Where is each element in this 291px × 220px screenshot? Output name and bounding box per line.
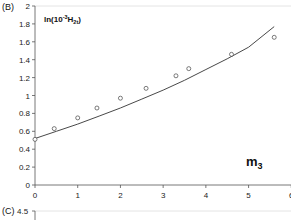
- x-ticks: 0123456: [33, 185, 291, 200]
- data-point: [33, 137, 37, 141]
- data-point: [187, 67, 191, 71]
- data-point: [272, 35, 276, 39]
- y-tick-label: 1: [26, 92, 31, 101]
- x-tick-label: 3: [161, 191, 166, 200]
- chart-panel-b: 00.20.40.60.811.21.41.61.82 0123456 (B) …: [0, 0, 291, 220]
- panel-label-b: (B): [2, 2, 14, 12]
- x-tick-label: 2: [118, 191, 123, 200]
- y-tick-label: 0: [26, 181, 31, 190]
- y-tick-label: 1.6: [19, 38, 31, 47]
- data-point: [95, 106, 99, 110]
- x-tick-label: 0: [33, 191, 38, 200]
- y-tick-label: 1.4: [19, 56, 31, 65]
- data-point: [144, 86, 148, 90]
- panel-label-c: (C): [2, 206, 15, 216]
- data-point: [76, 116, 80, 120]
- panel-c-y-tick: 4.5: [17, 207, 29, 216]
- y-tick-label: 2: [26, 2, 31, 11]
- fit-curve: [35, 27, 274, 139]
- y-tick-label: 0.2: [19, 163, 31, 172]
- y-tick-label: 0.8: [19, 109, 31, 118]
- x-tick-label: 5: [246, 191, 251, 200]
- data-point: [229, 52, 233, 56]
- data-points: [33, 35, 276, 141]
- y-tick-label: 0.6: [19, 127, 31, 136]
- data-point: [174, 74, 178, 78]
- y-ticks: 00.20.40.60.811.21.41.61.82: [19, 2, 35, 190]
- x-tick-label: 4: [204, 191, 209, 200]
- data-point: [118, 96, 122, 100]
- y-tick-label: 1.2: [19, 74, 31, 83]
- data-point: [52, 127, 56, 131]
- series-annotation: m3: [246, 154, 263, 171]
- y-tick-label: 1.8: [19, 20, 31, 29]
- x-tick-label: 6: [289, 191, 291, 200]
- y-tick-label: 0.4: [19, 145, 31, 154]
- y-axis-label: ln(10-3H2t): [44, 14, 81, 25]
- x-tick-label: 1: [75, 191, 80, 200]
